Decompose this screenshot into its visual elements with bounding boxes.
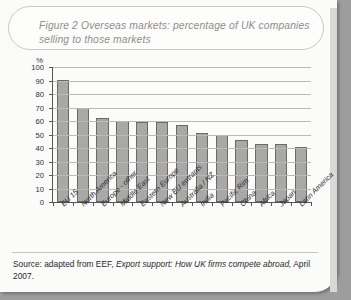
y-axis-tick — [49, 81, 53, 82]
figure-title-pill: Figure 2 Overseas markets: percentage of… — [8, 6, 324, 50]
y-axis-tick — [49, 94, 53, 95]
source-prefix: Source: adapted from EEF, — [13, 259, 116, 269]
y-axis-tick — [49, 108, 53, 109]
y-axis-tick — [49, 189, 53, 190]
grid-line — [53, 67, 311, 68]
figure-number: Figure 2 — [39, 20, 78, 31]
grid-line — [53, 121, 311, 122]
source-note: Source: adapted from EEF, Export support… — [13, 259, 313, 282]
y-axis-tick-label: 10 — [20, 184, 44, 193]
y-axis-tick-label: 60 — [20, 117, 44, 126]
figure-title-text: Overseas markets: percentage of UK compa… — [39, 20, 310, 45]
grid-line — [53, 162, 311, 163]
y-axis-tick — [49, 121, 53, 122]
grid-line — [53, 108, 311, 109]
source-title: Export support: How UK firms compete abr… — [116, 259, 291, 269]
chart: % EU 15North AmericaEurope - otherMiddle… — [12, 56, 318, 252]
bar — [216, 135, 228, 203]
y-axis-tick-label: 0 — [20, 198, 44, 207]
grid-line — [53, 175, 311, 176]
y-axis-tick — [49, 148, 53, 149]
grid-line — [53, 148, 311, 149]
y-axis-tick — [49, 162, 53, 163]
y-axis-tick — [49, 67, 53, 68]
figure-page: Figure 2 Overseas markets: percentage of… — [0, 0, 351, 300]
y-axis-tick-label: 20 — [20, 171, 44, 180]
y-axis-tick-label: 90 — [20, 76, 44, 85]
y-axis-tick-label: 50 — [20, 130, 44, 139]
y-axis-tick-label: 30 — [20, 157, 44, 166]
y-axis-tick-label: 40 — [20, 144, 44, 153]
source-divider — [12, 252, 318, 253]
page-title: Figure 2 Overseas markets: percentage of… — [39, 19, 321, 46]
grid-line — [53, 94, 311, 95]
y-axis-tick-label: 100 — [20, 63, 44, 72]
y-axis-tick-label: 80 — [20, 90, 44, 99]
grid-line — [53, 81, 311, 82]
bar — [57, 80, 69, 202]
grid-line — [53, 135, 311, 136]
y-axis-tick — [49, 175, 53, 176]
y-axis-tick — [49, 135, 53, 136]
y-axis-tick-label: 70 — [20, 103, 44, 112]
